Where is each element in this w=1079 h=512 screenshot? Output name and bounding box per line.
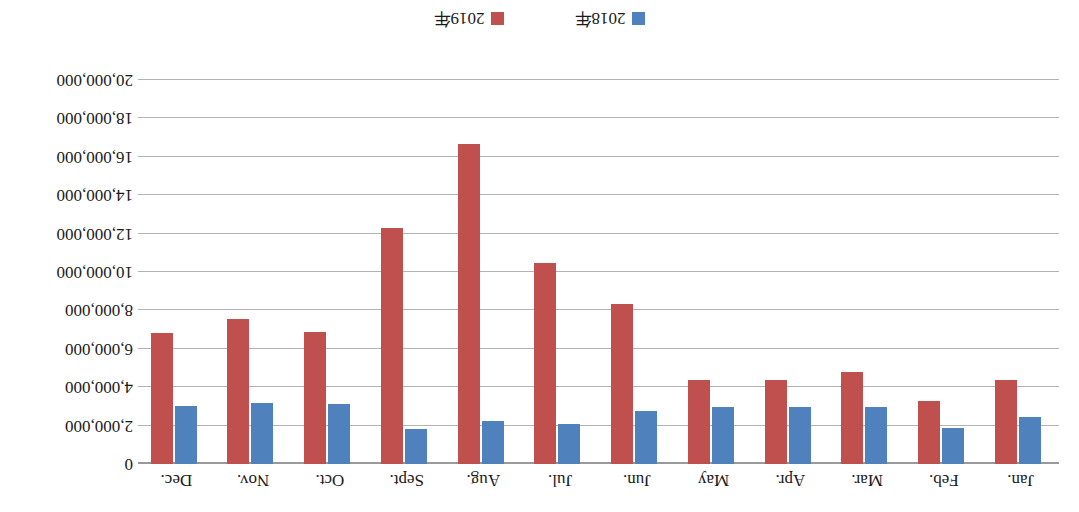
category-axis-label: Jul. [522,466,599,490]
category-axis-label: Oct. [292,466,369,490]
bar[interactable] [458,144,480,464]
category-axis-label: Nov. [215,466,292,490]
bar[interactable] [228,319,250,464]
legend-swatch-icon [633,13,646,26]
value-axis-label: 12,000,000 [8,226,133,243]
bar[interactable] [842,372,864,464]
bar-chart: Jan.Feb.Mar.Apr.MayJun.Jul.Aug.Sept.Oct.… [0,0,1079,512]
bar-group [215,80,292,464]
bar[interactable] [304,332,326,464]
value-axis-label: 0 [8,456,133,473]
bar[interactable] [765,380,787,464]
bar[interactable] [175,406,197,464]
bar[interactable] [942,428,964,464]
bar-group [138,80,215,464]
category-axis-label: Jun. [599,466,676,490]
bar[interactable] [535,263,557,464]
plot-area [138,80,1059,464]
legend-label: 2019年 [434,11,485,28]
bar[interactable] [688,380,710,464]
bar-group [675,80,752,464]
category-axis-label: Feb. [906,466,983,490]
bar-group [522,80,599,464]
bar[interactable] [611,304,633,464]
bar[interactable] [482,421,504,464]
bar-group [906,80,983,464]
bar[interactable] [405,429,427,464]
category-axis-label: May [675,466,752,490]
value-axis-label: 14,000,000 [8,187,133,204]
value-axis-label: 18,000,000 [8,110,133,127]
category-axis-label: Apr. [752,466,829,490]
bar-group [292,80,369,464]
bar-group [368,80,445,464]
category-axis-label: Aug. [445,466,522,490]
legend-entry[interactable]: 2019年 [434,11,505,28]
chart-legend: 2018年2019年 [0,4,1079,34]
value-axis-label: 8,000,000 [8,302,133,319]
value-axis-label: 2,000,000 [8,418,133,435]
bar[interactable] [712,407,734,464]
bar[interactable] [995,380,1017,464]
legend-label: 2018年 [575,11,626,28]
bar[interactable] [328,404,350,464]
value-axis-labels: 02,000,0004,000,0006,000,0008,000,00010,… [8,80,133,464]
bar[interactable] [252,403,274,464]
value-axis-label: 16,000,000 [8,149,133,166]
legend-entry[interactable]: 2018年 [575,11,646,28]
bar-group [599,80,676,464]
value-axis-label: 4,000,000 [8,379,133,396]
value-axis-label: 10,000,000 [8,264,133,281]
bar[interactable] [635,411,657,464]
value-axis-label: 6,000,000 [8,341,133,358]
category-axis-labels: Jan.Feb.Mar.Apr.MayJun.Jul.Aug.Sept.Oct.… [138,466,1059,490]
bar[interactable] [918,401,940,464]
bar[interactable] [559,424,581,464]
bar[interactable] [789,407,811,464]
bar-group [752,80,829,464]
bar-groups [138,80,1059,464]
bar[interactable] [151,333,173,464]
category-axis-label: Jan. [982,466,1059,490]
bar-group [829,80,906,464]
category-axis-label: Mar. [829,466,906,490]
bar[interactable] [1019,417,1041,464]
legend-swatch-icon [492,13,505,26]
bar-group [982,80,1059,464]
category-axis-label: Dec. [138,466,215,490]
category-axis-label: Sept. [368,466,445,490]
bar[interactable] [866,407,888,464]
bar[interactable] [381,228,403,464]
value-axis-label: 20,000,000 [8,72,133,89]
bar-group [445,80,522,464]
